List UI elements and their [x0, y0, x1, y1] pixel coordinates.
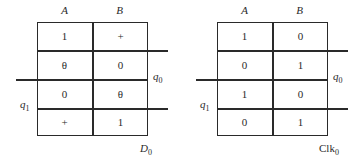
cell-r3-a: +: [37, 108, 92, 136]
map-title: D0: [140, 142, 152, 157]
cell-r0-a: 1: [217, 22, 272, 50]
karnaugh-map-clk0: A B 1 0 0 1 1 0 0 1 q0 q1 Clk0: [180, 0, 355, 164]
cell-r1-a: θ: [37, 51, 92, 79]
cell-r2-a: 0: [37, 80, 92, 108]
column-label-a: A: [37, 4, 92, 16]
row-var-q1: q1: [200, 98, 210, 113]
map-title: Clk0: [319, 142, 339, 157]
column-label-b: B: [272, 4, 327, 16]
column-label-b: B: [92, 4, 147, 16]
cell-r2-b: 0: [273, 80, 328, 108]
row-var-q1: q1: [20, 98, 30, 113]
cell-r3-a: 0: [217, 108, 272, 136]
cell-r1-b: 1: [273, 51, 328, 79]
cell-r2-b: θ: [93, 80, 148, 108]
cell-r1-b: 0: [93, 51, 148, 79]
cell-r3-b: 1: [93, 108, 148, 136]
cell-r3-b: 1: [273, 108, 328, 136]
row-var-q0: q0: [153, 70, 163, 85]
cell-r0-b: 0: [273, 22, 328, 50]
column-label-a: A: [217, 4, 272, 16]
row-var-q0: q0: [333, 70, 343, 85]
cell-r1-a: 0: [217, 51, 272, 79]
cell-r2-a: 1: [217, 80, 272, 108]
karnaugh-map-d0: A B 1 + θ 0 0 θ + 1 q0 q1 D0: [0, 0, 175, 164]
cell-r0-a: 1: [37, 22, 92, 50]
cell-r0-b: +: [93, 22, 148, 50]
